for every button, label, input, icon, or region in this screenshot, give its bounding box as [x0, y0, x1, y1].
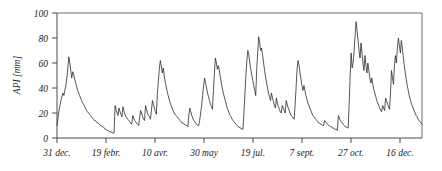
- x-tick-label-4: 19 jul.: [241, 148, 265, 158]
- x-tick-label-5: 7 sept.: [290, 148, 315, 158]
- y-tick-label-40: 40: [39, 84, 49, 94]
- api-time-series-chart: 100 80 60 40 20 0 API [mm] 31 dec. 19 fe…: [0, 0, 442, 171]
- chart-background: [0, 0, 442, 171]
- y-axis-title: API [mm]: [12, 56, 22, 96]
- y-tick-label-0: 0: [43, 134, 48, 144]
- x-tick-label-3: 30 may: [189, 148, 218, 158]
- x-tick-label-2: 10 avr.: [142, 148, 168, 158]
- y-tick-label-100: 100: [34, 9, 49, 19]
- chart-figure: 100 80 60 40 20 0 API [mm] 31 dec. 19 fe…: [0, 0, 442, 171]
- y-tick-label-80: 80: [39, 34, 49, 44]
- x-tick-label-6: 27 oct.: [338, 148, 364, 158]
- x-tick-label-1: 19 febr.: [92, 148, 121, 158]
- x-tick-label-0: 31 dec.: [42, 148, 70, 158]
- x-tick-label-7: 16 dec.: [386, 148, 413, 158]
- y-tick-label-60: 60: [39, 59, 49, 69]
- y-tick-label-20: 20: [39, 109, 49, 119]
